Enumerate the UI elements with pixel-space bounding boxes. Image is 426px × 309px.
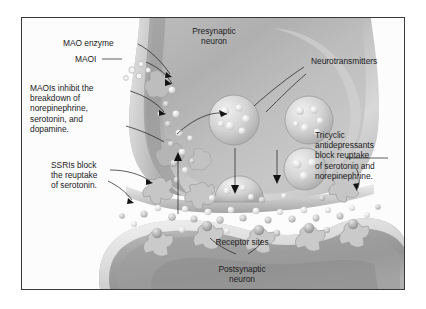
leader-ssri-action	[110, 170, 150, 181]
leader-maoi-action-2	[126, 126, 164, 142]
label-neurotransmitters: Neurotransmitters	[311, 56, 377, 66]
label-mao-enzyme: MAO enzyme	[63, 38, 114, 48]
leader-mao-enzyme	[138, 44, 170, 74]
label-tricyclic-action: Tricyclic antidepressants block reuptake…	[315, 130, 375, 181]
label-maoi-action: MAOIs inhibit the breakdown of norepinep…	[30, 83, 93, 134]
diagram-frame: MAO enzyme MAOI MAOIs inhibit the breakd…	[21, 17, 405, 290]
label-receptor-sites: Receptor sites	[197, 237, 287, 247]
leader-neurotransmitters-1	[254, 67, 304, 106]
label-presynaptic-neuron: Presynaptic neuron	[179, 26, 249, 46]
label-maoi: MAOI	[75, 54, 96, 64]
figure-canvas: MAO enzyme MAOI MAOIs inhibit the breakd…	[0, 0, 426, 309]
leader-ssri-action-2	[108, 181, 132, 200]
label-ssri-action: SSRIs block the reuptake of serotonin.	[51, 160, 97, 191]
leader-maoi-action	[130, 91, 164, 112]
label-postsynaptic-neuron: Postsynaptic neuron	[197, 264, 287, 284]
